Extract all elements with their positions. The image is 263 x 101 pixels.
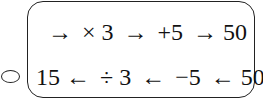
option-radio[interactable] (1, 70, 20, 83)
subtract-step: −5 (175, 64, 201, 90)
start-value: 50 (241, 64, 263, 90)
arrow-left-icon: ← (66, 64, 90, 90)
inverse-operations-row: 15 ← ÷ 3 ← −5 ← 50 (36, 64, 263, 90)
arrow-left-icon: ← (141, 64, 165, 90)
arrow-left-icon: ← (211, 64, 235, 90)
arrow-right-icon: → (124, 19, 148, 45)
arrow-right-icon: → (48, 19, 72, 45)
arrow-right-icon: → (193, 19, 217, 45)
input-value: 15 (36, 64, 60, 90)
divide-step: ÷ 3 (100, 64, 131, 90)
multiply-step: × 3 (82, 19, 114, 45)
add-step: +5 (158, 19, 184, 45)
output-value: 50 (223, 19, 247, 45)
forward-operations-row: → × 3 → +5 → 50 (48, 19, 247, 45)
